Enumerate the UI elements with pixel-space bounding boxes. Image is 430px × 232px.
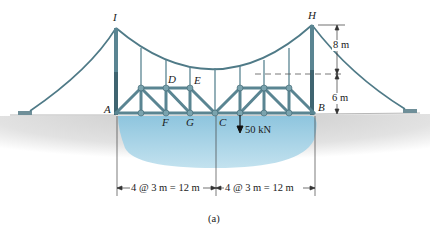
right-anchor xyxy=(403,109,417,113)
right-backstay-cable xyxy=(312,25,405,109)
joint-label-E: E xyxy=(194,75,201,86)
dimension-lower-height: 6 m xyxy=(331,93,349,104)
joint-label-D: D xyxy=(168,74,176,85)
dimension-upper-height: 8 m xyxy=(332,40,350,51)
dimension-right-span: 4 @ 3 m = 12 m xyxy=(225,183,294,194)
main-cable xyxy=(116,25,312,69)
suspension-bridge-figure: I H A B D E F G C 50 kN 8 m 6 m 4 @ 3 m … xyxy=(0,0,430,232)
joint-label-B: B xyxy=(318,102,325,113)
joint-label-A: A xyxy=(104,104,111,115)
joint-label-I: I xyxy=(113,12,117,23)
joint-label-G: G xyxy=(186,117,194,128)
dimension-left-span: 4 @ 3 m = 12 m xyxy=(131,183,200,194)
left-backstay-cable xyxy=(30,28,116,111)
left-anchor xyxy=(18,111,32,115)
figure-caption: (a) xyxy=(208,214,220,225)
bridge-drawing xyxy=(0,0,430,232)
joint-label-H: H xyxy=(308,10,316,21)
load-label: 50 kN xyxy=(245,125,271,136)
joint-label-C: C xyxy=(219,117,226,128)
joint-label-F: F xyxy=(162,117,169,128)
